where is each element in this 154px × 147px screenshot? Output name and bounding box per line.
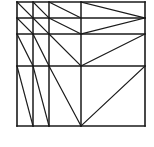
mesh-canvas (0, 0, 154, 147)
mesh-figure (0, 0, 154, 147)
